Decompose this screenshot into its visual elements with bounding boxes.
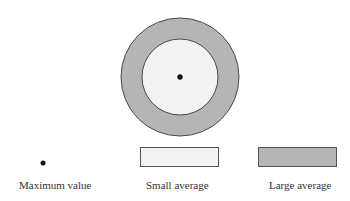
legend-max-dot-icon [41, 161, 46, 166]
legend-large-average-swatch [259, 148, 337, 167]
legend-label-large-average: Large average [269, 179, 331, 191]
average-diagram [0, 0, 350, 201]
legend-label-maximum-value: Maximum value [19, 179, 91, 191]
legend-small-average-swatch [141, 148, 219, 167]
legend [41, 148, 337, 167]
maximum-value-dot [177, 74, 182, 79]
legend-label-small-average: Small average [146, 179, 209, 191]
